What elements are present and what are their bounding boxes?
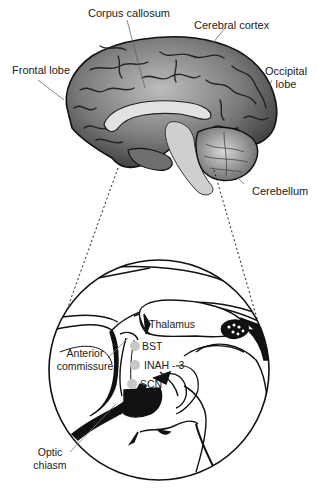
label-thalamus: Thalamus	[149, 318, 195, 331]
bst-nucleus-dot	[130, 341, 140, 351]
scn-nucleus-dot	[127, 379, 137, 389]
label-frontal-lobe: Frontal lobe	[12, 64, 70, 77]
brain-illustration	[66, 37, 276, 195]
label-cerebellum: Cerebellum	[252, 185, 308, 198]
label-optic-chiasm-line2: chiasm	[28, 459, 72, 472]
label-occipital-lobe-line2: lobe	[262, 78, 310, 91]
label-anterior-commissure-line1: Anterior	[52, 347, 118, 360]
label-corpus-callosum: Corpus callosum	[86, 7, 172, 20]
label-inah3: INAH - 3	[144, 359, 184, 372]
inah3-nucleus-dot	[130, 360, 140, 370]
label-bst: BST	[142, 340, 162, 353]
cerebellum-shape	[196, 127, 258, 180]
label-anterior-commissure-line2: commissure	[52, 360, 118, 373]
label-optic-chiasm-line1: Optic	[28, 446, 72, 459]
label-scn: SCN	[140, 378, 162, 391]
label-occipital-lobe-line1: Occipital	[262, 65, 310, 78]
label-cerebral-cortex: Cerebral cortex	[194, 19, 269, 32]
